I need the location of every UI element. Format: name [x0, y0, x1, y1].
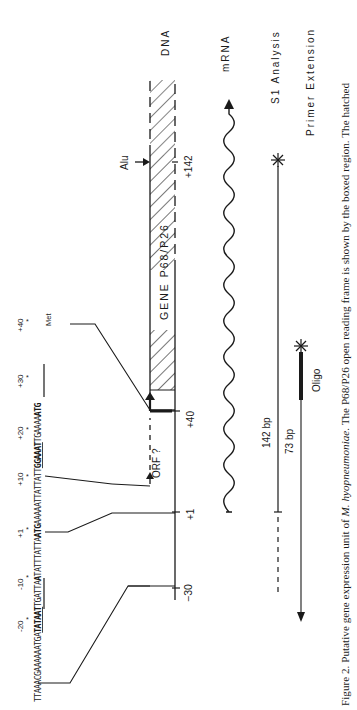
sequence-ticks: -20 -10 +1 +10 +20 +30 +40 * * * * * * *	[16, 318, 29, 632]
svg-text:+40: +40	[16, 318, 25, 332]
svg-text:+1: +1	[16, 528, 25, 538]
hatched-region-lower	[150, 330, 175, 390]
svg-text:+10: +10	[16, 472, 25, 486]
figure-caption: Figure 2. Putative gene expression unit …	[339, 82, 351, 706]
track-label-s1-analysis: S1 Analysis	[270, 30, 281, 104]
arrow-up-icon	[145, 392, 155, 400]
arrow-right-icon	[143, 158, 150, 166]
mrna-transcript	[224, 99, 235, 512]
svg-text:*: *	[26, 318, 29, 325]
position-plus40: +40	[185, 411, 196, 428]
sequence-text: TTAAACGAAAAAATGATATAATTGATTAATATTTATTAAT…	[33, 403, 43, 702]
primer-length-label: 73 bp	[284, 429, 295, 454]
s1-probe: 142 bp	[261, 153, 285, 592]
position-plus142: +142	[183, 155, 194, 178]
svg-text:-10: -10	[16, 578, 25, 590]
asterisk-icon	[294, 339, 308, 353]
svg-text:*: *	[26, 616, 29, 623]
svg-text:*: *	[26, 374, 29, 381]
track-label-mrna: mRNA	[220, 35, 231, 72]
svg-text:*: *	[26, 526, 29, 533]
svg-text:*: *	[26, 574, 29, 581]
alu-site-marker: Alu	[119, 156, 150, 170]
position-plus1: +1	[185, 508, 196, 520]
orf-label: ORF ?	[151, 448, 162, 478]
svg-text:*: *	[26, 473, 29, 480]
svg-text:*: *	[26, 426, 29, 433]
gene-label: GENE P68/P26	[158, 223, 170, 320]
gene-expression-diagram: GENE P68/P26 Alu +142 +40 +1 −30 ORF ?	[0, 0, 357, 710]
svg-text:+20: +20	[16, 426, 25, 440]
met-label: Met	[44, 313, 53, 326]
track-label-primer-extension: Primer Extension	[305, 28, 316, 136]
track-label-dna: DNA	[160, 29, 171, 56]
orf-marker: ORF ?	[112, 418, 162, 486]
asterisk-icon	[271, 153, 285, 167]
svg-text:+30: +30	[16, 374, 25, 388]
alu-label: Alu	[119, 156, 130, 170]
primer-extension-product: 73 bp Oligo	[284, 339, 322, 622]
oligo-label: Oligo	[311, 368, 322, 392]
promoter-sequence: TTAAACGAAAAAATGATATAATTGATTAATATTTATTAAT…	[33, 313, 53, 702]
position-minus30: −30	[182, 584, 194, 602]
hatched-region-extension	[150, 80, 175, 155]
arrow-up-icon	[224, 99, 234, 109]
arrow-down-icon	[297, 612, 305, 622]
svg-text:-20: -20	[16, 620, 25, 632]
s1-length-label: 142 bp	[261, 417, 272, 448]
